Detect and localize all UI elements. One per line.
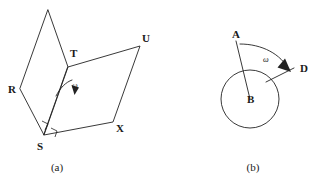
figure-canvas: T R S U X ω (a) A B D ω (b) [0, 0, 323, 180]
omega-label-a: ω [72, 81, 78, 90]
geometry-figure-panel: T R S U X ω (a) A B D ω (b) [0, 0, 323, 180]
right-angle-mark-1 [42, 121, 48, 130]
vertex-label-B: B [247, 93, 255, 105]
vertex-label-S: S [37, 140, 43, 152]
vertex-label-A: A [232, 28, 240, 40]
right-angle-mark-2 [51, 128, 57, 137]
panel-a-group: T R S U X ω (a) [8, 10, 150, 174]
parallelogram-RSTapex [20, 10, 68, 135]
vertex-label-D: D [300, 62, 308, 74]
vertex-label-R: R [8, 83, 17, 95]
caption-b: (b) [247, 161, 260, 174]
omega-label-b: ω [263, 55, 269, 64]
vertex-label-X: X [116, 122, 124, 134]
parallelogram-TUXS [44, 46, 140, 135]
panel-b-group: A B D ω (b) [221, 28, 308, 174]
rotation-arrowhead-b [278, 59, 292, 73]
vertex-label-U: U [142, 32, 150, 44]
vertex-label-T: T [70, 47, 78, 59]
caption-a: (a) [51, 161, 64, 174]
